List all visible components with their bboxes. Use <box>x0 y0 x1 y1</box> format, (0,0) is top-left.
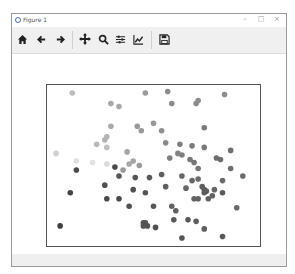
scatter-point <box>210 193 216 199</box>
scatter-point <box>222 92 228 98</box>
line-chart-icon <box>133 34 144 45</box>
scatter-point <box>104 145 110 151</box>
figure-canvas[interactable] <box>12 54 286 254</box>
scatter-point <box>195 166 201 172</box>
scatter-point <box>191 160 197 166</box>
scatter-point <box>120 167 126 173</box>
scatter-point <box>201 226 207 232</box>
scatter-point <box>67 190 73 196</box>
maximize-button[interactable]: □ <box>254 15 268 23</box>
scatter-point <box>195 98 201 104</box>
home-icon <box>17 34 28 45</box>
scatter-point <box>126 203 132 209</box>
scatter-point <box>201 190 207 196</box>
scatter-point <box>169 101 175 107</box>
scatter-point <box>195 196 201 202</box>
sliders-icon <box>115 34 126 45</box>
toolbar-separator <box>151 31 152 49</box>
window-title: Figure 1 <box>23 16 47 23</box>
scatter-point <box>218 157 224 163</box>
pan-button[interactable] <box>78 32 92 46</box>
scatter-point <box>74 167 80 173</box>
scatter-point <box>165 89 171 95</box>
scatter-point <box>116 196 122 202</box>
scatter-point <box>179 152 185 158</box>
scatter-point <box>126 161 132 167</box>
scatter-point <box>234 205 240 211</box>
scatter-point <box>136 163 142 169</box>
home-button[interactable] <box>15 32 29 46</box>
figure-window: Figure 1 – □ × <box>11 13 287 267</box>
scatter-point <box>104 196 110 202</box>
scatter-point <box>132 175 138 181</box>
scatter-point <box>163 140 169 146</box>
scatter-point <box>143 90 149 96</box>
scatter-point <box>220 234 226 240</box>
scatter-point <box>108 101 114 107</box>
arrow-right-icon <box>55 34 66 45</box>
scatter-point <box>195 176 201 182</box>
scatter-point <box>94 142 100 148</box>
scatter-point <box>116 173 122 179</box>
scatter-point <box>134 123 140 129</box>
scatter-point <box>108 123 114 129</box>
scatter-point <box>220 190 226 196</box>
scatter-point <box>189 143 195 149</box>
configure-subplots-button[interactable] <box>113 32 127 46</box>
matplotlib-app-icon <box>15 17 21 23</box>
scatter-point <box>153 225 159 231</box>
scatter-point <box>143 190 149 196</box>
scatter-point <box>102 182 108 188</box>
scatter-point <box>189 178 195 184</box>
scatter-point <box>177 142 183 148</box>
scatter-point <box>228 148 234 154</box>
navigation-toolbar <box>12 27 286 54</box>
floppy-disk-icon <box>159 34 170 45</box>
plot-axes[interactable] <box>46 84 261 247</box>
back-button[interactable] <box>34 32 48 46</box>
scatter-point <box>151 203 157 209</box>
scatter-point <box>171 217 177 223</box>
save-button[interactable] <box>157 32 171 46</box>
status-bar <box>12 254 286 266</box>
scatter-point <box>53 151 59 157</box>
scatter-point <box>212 187 218 193</box>
forward-button[interactable] <box>53 32 67 46</box>
scatter-point <box>70 90 76 96</box>
zoom-button[interactable] <box>96 32 110 46</box>
scatter-point <box>163 184 169 190</box>
magnifier-icon <box>98 34 109 45</box>
scatter-point <box>185 217 191 223</box>
scatter-point <box>179 235 185 241</box>
scatter-point <box>116 104 122 110</box>
scatter-point <box>173 208 179 214</box>
scatter-point <box>201 125 207 131</box>
close-button[interactable]: × <box>270 15 284 23</box>
scatter-point <box>228 166 234 172</box>
scatter-point <box>147 175 153 181</box>
scatter-point <box>159 172 165 178</box>
toolbar-separator <box>72 31 73 49</box>
scatter-point <box>193 219 199 225</box>
scatter-point <box>151 120 157 126</box>
scatter-point <box>104 134 110 140</box>
scatter-point <box>141 220 147 226</box>
scatter-point <box>179 173 185 179</box>
scatter-point <box>90 160 96 166</box>
scatter-point <box>167 155 173 161</box>
scatter-point <box>124 149 130 155</box>
edit-axes-button[interactable] <box>131 32 145 46</box>
scatter-point <box>169 203 175 209</box>
arrow-left-icon <box>36 34 47 45</box>
scatter-point <box>220 178 226 184</box>
scatter-point <box>104 161 110 167</box>
move-icon <box>79 33 91 45</box>
scatter-point <box>57 223 63 229</box>
scatter-plot <box>47 85 260 246</box>
minimize-button[interactable]: – <box>238 15 252 23</box>
scatter-point <box>74 158 80 164</box>
scatter-point <box>240 173 246 179</box>
scatter-point <box>201 145 207 151</box>
scatter-point <box>112 164 118 170</box>
scatter-point <box>159 128 165 134</box>
